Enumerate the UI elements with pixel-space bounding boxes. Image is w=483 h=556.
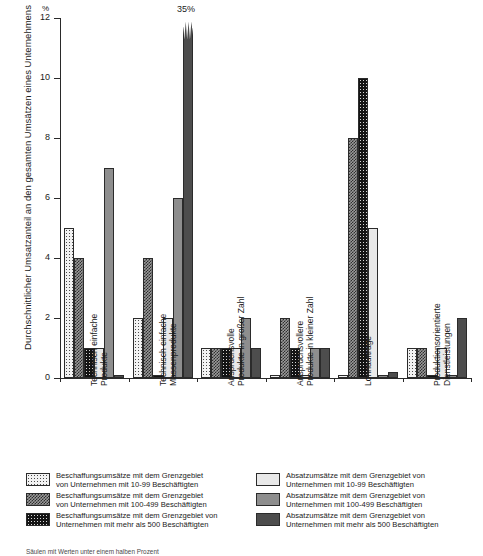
legend-swatch [256,473,280,486]
legend-label-line2: von Unternehmen mit 100-499 Beschäftigte… [56,501,207,510]
bar [251,348,261,378]
legend-item[interactable]: Beschaffungsumsätze mit dem Grenzgebiet … [26,512,246,529]
x-axis-category-label-line: Produkte in kleiner Zahl [305,297,315,386]
x-axis-category-label: Technisch einfacheProdukte [89,314,109,386]
x-axis-category-label-line: Technisch einfache [89,314,99,386]
legend-column-left: Beschaffungsumsätze mit dem Grenzgebietv… [26,472,246,533]
x-axis-category-label: ProduktionsorientierteDienstleistungen [432,303,452,386]
legend-label: Absatzumsätze mit dem Grenzgebiet vonUnt… [286,472,425,489]
x-axis-tick [266,378,267,382]
x-axis-category-label: AnspruchsvollereProdukte in kleiner Zahl [295,297,315,386]
bar [74,258,84,378]
y-axis-title: Durchschnittlicher Umsatzanteil an den g… [22,0,33,373]
legend-label: Beschaffungsumsätze mit dem Grenzgebietv… [56,472,203,489]
legend-label: Beschaffungsumsätze mit dem Grenzgebiet … [56,512,218,529]
x-axis-category-label-line: Massenprodukte [168,314,178,386]
x-axis-category-label-line: Dienstleistungen [442,303,452,386]
bar [378,375,388,378]
legend: Beschaffungsumsätze mit dem Grenzgebietv… [0,472,483,538]
bar [270,375,280,378]
bar [183,18,193,378]
legend-swatch [256,513,280,526]
chart-root: % 024681012 Durchschnittlicher Umsatzant… [0,0,483,556]
x-axis-category-label: Lohnaufträge [363,336,373,386]
legend-label: Absatzumsätze mit dem Grenzgebiet vonUnt… [286,512,438,529]
bar [417,348,427,378]
x-axis-category-label-line: Technisch einfache [158,314,168,386]
bar [320,348,330,378]
bar [388,372,398,378]
legend-swatch [26,493,50,506]
y-axis-tick-label: 0 [0,373,50,382]
bar [143,258,153,378]
x-axis-category-label-line: Anspruchsvolle [226,297,236,386]
bar [133,318,143,378]
x-axis-category-label-line: Produktionsorientierte [432,303,442,386]
x-axis-tick [403,378,404,382]
legend-swatch [26,513,50,526]
bar-group [334,18,403,378]
legend-label: Beschaffungsumsätze mit dem Grenzgebietv… [56,492,207,509]
bar [201,348,211,378]
legend-item[interactable]: Beschaffungsumsätze mit dem Grenzgebietv… [26,492,246,509]
bar [348,138,358,378]
legend-item[interactable]: Absatzumsätze mit dem Grenzgebiet vonUnt… [256,492,480,509]
bar [358,78,368,378]
legend-label-line2: Unternehmen mit 100-499 Beschäftigten [286,501,425,510]
legend-column-right: Absatzumsätze mit dem Grenzgebiet vonUnt… [256,472,480,533]
footnote: Säulen mit Werten unter einem halben Pro… [26,548,466,556]
x-axis-tick [60,378,61,382]
bar [280,318,290,378]
bar [114,375,124,378]
bar [407,348,417,378]
legend-label-line2: Unternehmen mit mehr als 500 Beschäftigt… [286,521,438,530]
x-axis-category-label: Technisch einfacheMassenprodukte [158,314,178,386]
bar [338,375,348,378]
legend-label-line2: Unternehmen mit mehr als 500 Beschäftigt… [56,521,218,530]
legend-item[interactable]: Absatzumsätze mit dem Grenzgebiet vonUnt… [256,472,480,489]
legend-label: Absatzumsätze mit dem Grenzgebiet vonUnt… [286,492,425,509]
legend-item[interactable]: Beschaffungsumsätze mit dem Grenzgebietv… [26,472,246,489]
legend-label-line2: von Unternehmen mit 10-99 Beschäftigten [56,481,203,490]
x-axis-tick [197,378,198,382]
plot-area [60,18,471,378]
legend-label-line2: Unternehmen mit 10-99 Beschäftigten [286,481,425,490]
bar [211,348,221,378]
x-axis-tick [129,378,130,382]
x-axis-tick [334,378,335,382]
x-axis-category-label-line: Lohnaufträge [363,336,373,386]
x-axis-category-label-line: Produkte [99,314,109,386]
bar [64,228,74,378]
x-axis-category-label: AnspruchsvolleProdukte in großer Zahl [226,297,246,386]
bar [457,318,467,378]
bar-value-annotation: 35% [177,4,195,14]
legend-swatch [26,473,50,486]
legend-swatch [256,493,280,506]
legend-item[interactable]: Absatzumsätze mit dem Grenzgebiet vonUnt… [256,512,480,529]
x-axis-category-label-line: Anspruchsvollere [295,297,305,386]
x-axis-tick [471,378,472,382]
x-axis-category-label-line: Produkte in großer Zahl [236,297,246,386]
